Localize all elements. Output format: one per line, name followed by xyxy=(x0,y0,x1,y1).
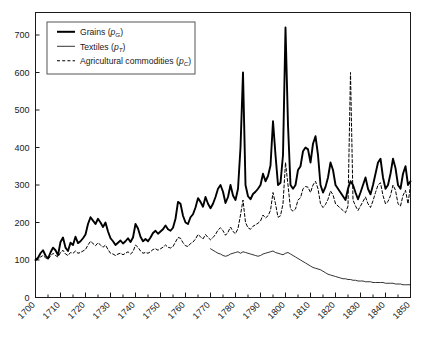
y-tick-label: 700 xyxy=(14,30,29,40)
chart-svg: 0100200300400500600700 17001710172017301… xyxy=(0,0,424,352)
y-tick-label: 300 xyxy=(14,180,29,190)
legend-label: Agricultural commodities (pC) xyxy=(80,56,191,67)
y-tick-label: 600 xyxy=(14,68,29,78)
chart-figure: 0100200300400500600700 17001710172017301… xyxy=(0,0,424,352)
legend-label: Textiles (pT) xyxy=(80,42,125,53)
y-tick-label: 400 xyxy=(14,143,29,153)
y-tick-label: 100 xyxy=(14,255,29,265)
y-tick-label: 500 xyxy=(14,105,29,115)
legend-box: Grains (pG)Textiles (pT)Agricultural com… xyxy=(47,22,195,74)
y-tick-label: 200 xyxy=(14,218,29,228)
